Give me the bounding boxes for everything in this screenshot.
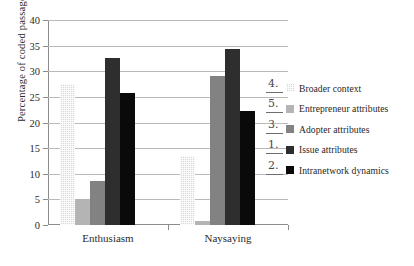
handwritten-annotation: 3. (268, 115, 288, 136)
y-axis-tick (43, 148, 48, 149)
y-axis-title: Percentage of coded passages (16, 0, 30, 142)
y-axis-tick-label: 10 (30, 168, 41, 179)
legend-swatch-icon (286, 146, 294, 154)
y-axis-tick (43, 46, 48, 47)
bar (90, 181, 105, 225)
y-axis-tick-label: 30 (30, 66, 41, 77)
legend-label: Issue attributes (299, 144, 358, 155)
handwritten-annotation: 4. (268, 74, 288, 95)
bar (210, 76, 225, 225)
y-axis-tick-label: 0 (35, 220, 40, 231)
legend-item[interactable]: Intranetwork dynamics (286, 160, 414, 181)
legend: Broader contextEntrepreneur attributesAd… (286, 78, 414, 181)
bar (60, 84, 75, 225)
handwritten-annotation: 5. (268, 95, 288, 116)
y-axis-tick-label: 40 (30, 15, 41, 26)
y-axis-tick (43, 97, 48, 98)
x-axis-label-naysaying: Naysaying (168, 232, 288, 244)
plot-area: 0510152025303540 (48, 20, 288, 225)
bar-chart: Percentage of coded passages 05101520253… (0, 0, 414, 266)
legend-item[interactable]: Issue attributes (286, 140, 414, 161)
y-axis-tick (43, 71, 48, 72)
bar (105, 58, 120, 225)
legend-swatch-icon (286, 84, 294, 92)
legend-item[interactable]: Entrepreneur attributes (286, 99, 414, 120)
x-axis-label-enthusiasm: Enthusiasm (48, 232, 168, 244)
handwritten-annotation: 2. (268, 156, 288, 177)
legend-swatch-icon (286, 125, 294, 133)
bar (75, 199, 90, 225)
legend-label: Broader context (299, 83, 361, 94)
y-axis-tick (43, 174, 48, 175)
legend-label: Entrepreneur attributes (299, 103, 388, 114)
y-axis-tick (43, 123, 48, 124)
y-axis-tick (43, 225, 48, 226)
legend-swatch-icon (286, 105, 294, 113)
legend-item[interactable]: Broader context (286, 78, 414, 99)
y-axis-tick (43, 20, 48, 21)
y-axis-tick (43, 199, 48, 200)
bar (195, 221, 210, 225)
x-axis-tick (288, 225, 289, 230)
y-axis-tick-label: 35 (30, 40, 41, 51)
bar (225, 49, 240, 225)
handwritten-annotation: 1. (268, 136, 288, 157)
bar (120, 93, 135, 225)
legend-swatch-icon (286, 166, 294, 174)
legend-item[interactable]: Adopter attributes (286, 119, 414, 140)
y-axis-tick-label: 5 (35, 194, 40, 205)
bar-group-naysaying (180, 20, 276, 225)
legend-label: Adopter attributes (299, 124, 369, 135)
y-axis-tick-label: 15 (30, 143, 41, 154)
bar (240, 111, 255, 225)
bar-group-enthusiasm (60, 20, 156, 225)
y-axis-tick-label: 20 (30, 117, 41, 128)
y-axis-tick-label: 25 (30, 91, 41, 102)
x-axis-tick (168, 225, 169, 230)
legend-label: Intranetwork dynamics (299, 165, 389, 176)
handwritten-annotations: 4.5.3.1.2. (268, 74, 288, 177)
bar (180, 156, 195, 225)
